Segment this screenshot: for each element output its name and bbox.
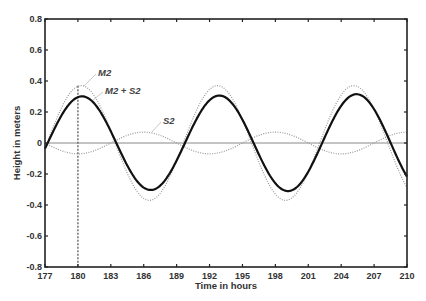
annotation-label: M2 + S2 [105, 85, 141, 96]
x-tick-label: 207 [367, 271, 382, 281]
x-tick-label: 201 [301, 271, 316, 281]
y-tick-label: -0.6 [26, 231, 42, 241]
y-tick-label: -0.2 [26, 169, 42, 179]
plot-area: 177180183186189192195198201204207210 -0.… [26, 14, 414, 281]
x-tick-label: 204 [334, 271, 349, 281]
tidal-chart: 177180183186189192195198201204207210 -0.… [0, 0, 426, 301]
x-tick-label: 210 [399, 271, 414, 281]
x-tick-label: 189 [169, 271, 184, 281]
y-tick-label: 0.8 [29, 14, 42, 24]
annotation-label: S2 [163, 115, 175, 126]
y-tick-label: 0.4 [29, 76, 42, 86]
y-tick-label: -0.4 [26, 200, 42, 210]
y-tick-label: 0.2 [29, 107, 42, 117]
x-tick-label: 180 [70, 271, 85, 281]
annotation-label: M2 [98, 67, 112, 78]
y-axis-label: Height in meters [11, 106, 22, 180]
y-tick-label: -0.8 [26, 262, 42, 272]
y-tick-label: 0 [37, 138, 42, 148]
x-tick-label: 177 [37, 271, 52, 281]
x-axis-label: Time in hours [195, 280, 257, 291]
x-tick-label: 186 [136, 271, 151, 281]
x-tick-label: 183 [103, 271, 118, 281]
x-tick-label: 198 [268, 271, 283, 281]
y-tick-label: 0.6 [29, 45, 42, 55]
